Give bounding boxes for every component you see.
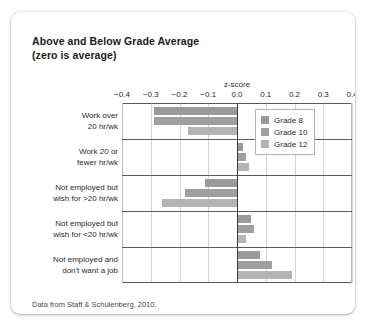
- bar: [237, 251, 260, 259]
- chart-legend: Grade 8Grade 10Grade 12: [255, 109, 315, 155]
- bar: [237, 225, 254, 233]
- legend-label: Grade 10: [274, 128, 307, 137]
- x-tick-label: 0.4: [337, 90, 355, 99]
- grid-line: [180, 103, 181, 283]
- chart-card: Above and Below Grade Average (zero is a…: [11, 12, 355, 314]
- category-label: Work over20 hr/wk: [26, 110, 118, 132]
- legend-label: Grade 8: [274, 116, 303, 125]
- y-axis-category-labels: Work over20 hr/wkWork 20 orfewer hr/wkNo…: [22, 103, 118, 283]
- bar: [154, 117, 237, 125]
- bar: [188, 127, 237, 135]
- x-tick-label: −0.3: [136, 90, 166, 99]
- bar: [237, 261, 272, 269]
- category-label-line: Not employed and: [26, 254, 118, 265]
- legend-swatch-icon: [261, 140, 269, 148]
- x-tick-label: −0.1: [193, 90, 223, 99]
- bar: [237, 215, 251, 223]
- chart-title-line-2: (zero is average): [32, 48, 292, 62]
- bar: [205, 179, 237, 187]
- category-label-line: Work 20 or: [26, 146, 118, 157]
- grid-line: [323, 103, 324, 283]
- plot-area: [122, 103, 352, 283]
- x-tick-label: 0.0: [222, 90, 252, 99]
- x-tick-label: −0.2: [165, 90, 195, 99]
- plot-border-right: [351, 103, 352, 283]
- legend-item: Grade 8: [261, 114, 307, 126]
- bar: [185, 189, 237, 197]
- bar: [237, 163, 249, 171]
- x-axis-title: z-score: [122, 80, 352, 89]
- category-label-line: Work over: [26, 110, 118, 121]
- category-label: Not employed butwish for <20 hr/wk: [26, 218, 118, 240]
- legend-item: Grade 10: [261, 126, 307, 138]
- chart-title: Above and Below Grade Average (zero is a…: [32, 34, 292, 62]
- bar: [237, 271, 292, 279]
- category-label-line: 20 hr/wk: [26, 121, 118, 132]
- category-label: Not employed anddon't want a job: [26, 254, 118, 276]
- bar: [162, 199, 237, 207]
- category-label: Work 20 orfewer hr/wk: [26, 146, 118, 168]
- x-tick-label: 0.2: [280, 90, 310, 99]
- category-label-line: wish for <20 hr/wk: [26, 229, 118, 240]
- legend-item: Grade 12: [261, 138, 307, 150]
- x-tick-label: 0.3: [308, 90, 338, 99]
- category-label-line: don't want a job: [26, 265, 118, 276]
- category-label-line: fewer hr/wk: [26, 157, 118, 168]
- category-label-line: wish for >20 hr/wk: [26, 193, 118, 204]
- legend-swatch-icon: [261, 116, 269, 124]
- bar: [154, 107, 237, 115]
- chart-source-note: Data from Staff & Schulenberg, 2010.: [32, 300, 157, 309]
- bar: [237, 235, 246, 243]
- x-tick-label: 0.1: [251, 90, 281, 99]
- grid-line: [151, 103, 152, 283]
- zero-line: [237, 103, 238, 283]
- bar: [237, 153, 246, 161]
- category-label: Not employed butwish for >20 hr/wk: [26, 182, 118, 204]
- category-label-line: Not employed but: [26, 218, 118, 229]
- legend-label: Grade 12: [274, 140, 307, 149]
- chart-title-line-1: Above and Below Grade Average: [32, 34, 292, 48]
- x-tick-label: −0.4: [107, 90, 137, 99]
- legend-swatch-icon: [261, 128, 269, 136]
- grid-line: [352, 103, 353, 283]
- plot-border-left: [122, 103, 123, 283]
- category-label-line: Not employed but: [26, 182, 118, 193]
